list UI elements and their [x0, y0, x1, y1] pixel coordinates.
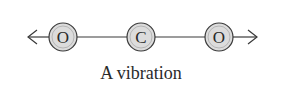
diagram-caption: A vibration	[0, 63, 282, 84]
right-arrow-icon	[233, 30, 257, 44]
left-arrow-icon	[28, 30, 49, 44]
atom-oxygen-right: O	[205, 23, 233, 51]
atom-label: C	[135, 28, 146, 47]
atom-label: O	[57, 28, 69, 47]
atom-label: O	[213, 28, 225, 47]
atom-oxygen-left: O	[49, 23, 77, 51]
atom-carbon: C	[127, 23, 155, 51]
